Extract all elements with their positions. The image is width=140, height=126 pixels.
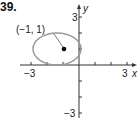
annotation-leader	[54, 34, 63, 47]
center-label: (−1, 1)	[16, 24, 45, 35]
x-axis-label: x	[131, 68, 138, 79]
x-max-label: 3	[122, 68, 128, 79]
x-min-label: −3	[24, 68, 36, 79]
center-point	[62, 47, 67, 52]
y-axis-label: y	[82, 3, 89, 14]
x-axis-arrow-icon	[132, 63, 137, 67]
y-min-label: −3	[64, 108, 76, 119]
y-axis-arrow-icon	[77, 4, 81, 9]
graph: (−1, 1) y 3 −3 −3 3 x	[0, 0, 140, 126]
y-max-label: 3	[72, 12, 78, 23]
